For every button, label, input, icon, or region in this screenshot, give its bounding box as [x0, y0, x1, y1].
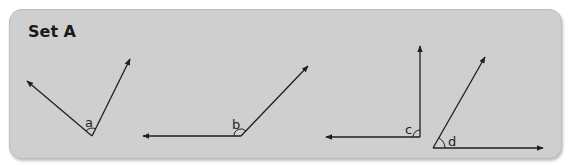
- angle-label-d: d: [448, 134, 456, 149]
- angle-a: a: [27, 59, 130, 136]
- angle-label-c: c: [405, 122, 412, 137]
- angle-d: d: [433, 57, 543, 149]
- angle-label-a: a: [85, 115, 93, 130]
- angle-c: c: [326, 46, 420, 137]
- angles-diagram: a b c d: [0, 0, 576, 165]
- angle-b: b: [143, 66, 308, 136]
- angle-label-b: b: [232, 117, 240, 132]
